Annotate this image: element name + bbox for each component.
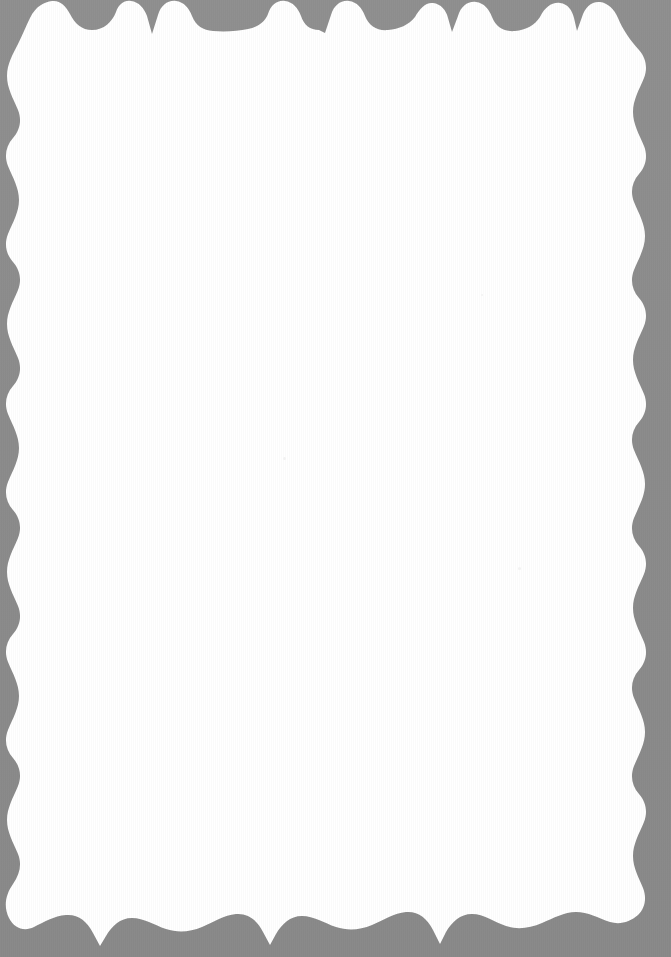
scanned-page [0,0,671,957]
page-body-text [40,30,628,915]
scan-speck [283,457,286,460]
scan-speck [518,567,521,570]
scan-speck [481,294,483,296]
page-content-area [40,30,628,915]
